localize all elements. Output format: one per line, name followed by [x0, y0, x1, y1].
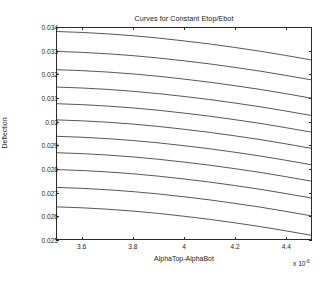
y-tick-mark-left [56, 51, 59, 52]
contour-curve-7 [57, 136, 311, 164]
figure-canvas: Curves for Constant Etop/Ebot 0.0250.026… [0, 0, 331, 282]
x-tick-label: 4.4 [282, 243, 291, 250]
x-tick-mark-bottom [235, 237, 236, 240]
x-tick-mark-bottom [82, 237, 83, 240]
x-tick-label: 4 [182, 243, 186, 250]
contour-curve-9 [57, 170, 311, 198]
x-tick-mark-top [133, 27, 134, 30]
x-axis-label: AlphaTop-AlphaBot [56, 255, 312, 262]
x-tick-mark-bottom [133, 237, 134, 240]
x-tick-mark-bottom [286, 237, 287, 240]
y-axis-label: Deflection [1, 117, 8, 148]
y-tick-mark-right [309, 193, 312, 194]
contour-curve-3 [57, 70, 311, 98]
x-tick-mark-top [286, 27, 287, 30]
x-axis-exponent-multiplier: x 10-6 [293, 259, 310, 267]
y-tick-mark-left [56, 240, 59, 241]
x-tick-mark-top [82, 27, 83, 30]
y-tick-mark-left [56, 145, 59, 146]
exponent-power: -6 [305, 259, 309, 264]
y-tick-mark-right [309, 98, 312, 99]
contour-curve-1 [57, 32, 311, 60]
y-tick-mark-left [56, 74, 59, 75]
contour-curve-2 [57, 51, 311, 79]
plot-area [56, 27, 312, 240]
contour-curve-5 [57, 104, 311, 132]
contour-curve-6 [57, 120, 311, 148]
y-tick-mark-right [309, 27, 312, 28]
y-tick-mark-right [309, 122, 312, 123]
x-tick-mark-top [184, 27, 185, 30]
y-tick-mark-right [309, 51, 312, 52]
contour-curve-11 [57, 207, 311, 235]
x-tick-mark-bottom [184, 237, 185, 240]
y-tick-mark-left [56, 98, 59, 99]
y-tick-mark-left [56, 27, 59, 28]
y-tick-mark-right [309, 240, 312, 241]
contour-curve-8 [57, 153, 311, 181]
chart-title: Curves for Constant Etop/Ebot [56, 14, 312, 23]
y-tick-mark-left [56, 216, 59, 217]
curve-layer [57, 28, 311, 239]
y-tick-mark-right [309, 216, 312, 217]
y-tick-mark-left [56, 169, 59, 170]
x-tick-mark-top [235, 27, 236, 30]
y-tick-mark-left [56, 122, 59, 123]
x-tick-label: 3.6 [77, 243, 86, 250]
y-tick-mark-right [309, 145, 312, 146]
x-tick-label: 4.2 [231, 243, 240, 250]
x-tick-label: 3.8 [128, 243, 137, 250]
y-tick-mark-right [309, 74, 312, 75]
exponent-base: x 10 [293, 260, 305, 267]
y-tick-mark-right [309, 169, 312, 170]
y-tick-mark-left [56, 193, 59, 194]
